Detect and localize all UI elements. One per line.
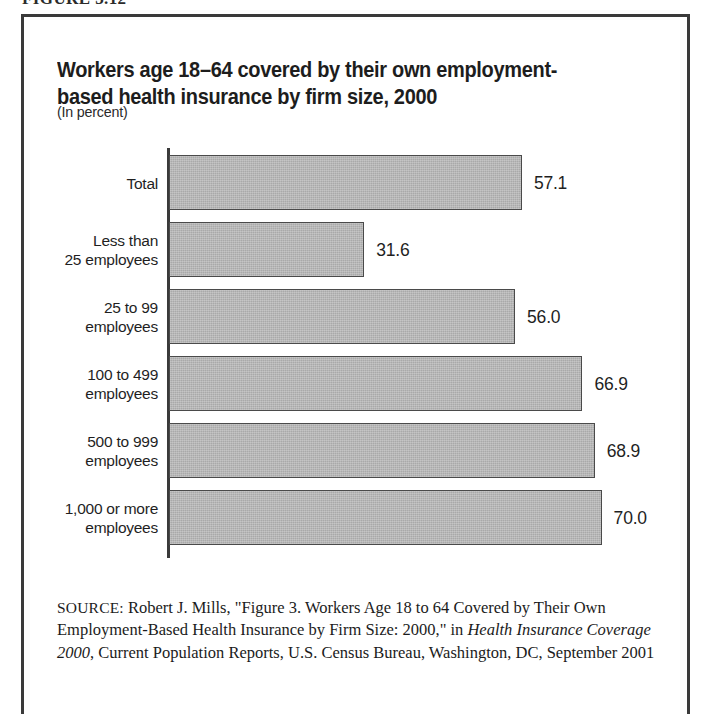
bar-category-label: 100 to 499 employees [0,365,158,403]
figure-number-label: FIGURE 3.12 [22,0,127,9]
bar[interactable] [169,490,602,545]
source-text-after: , Current Population Reports, U.S. Censu… [90,643,654,662]
bar[interactable] [169,222,364,277]
bar-row: 500 to 999 employees68.9 [24,423,693,478]
source-note: SOURCE: Robert J. Mills, "Figure 3. Work… [57,597,657,665]
bar-category-label: Total [0,173,158,192]
bar[interactable] [169,423,595,478]
bar-row: 25 to 99 employees56.0 [24,289,693,344]
bar-value-label: 66.9 [594,373,627,394]
bar-value-label: 68.9 [607,440,640,461]
bar-value-label: 31.6 [376,239,409,260]
bar-value-label: 57.1 [534,172,567,193]
bar-value-label: 70.0 [614,507,647,528]
bar-chart-plot-area: Total57.1Less than 25 employees31.625 to… [24,17,693,577]
bar-row: 1,000 or more employees70.0 [24,490,693,545]
bar[interactable] [169,356,582,411]
bar-value-label: 56.0 [527,306,560,327]
bar-row: Less than 25 employees31.6 [24,222,693,277]
bar-category-label: Less than 25 employees [0,231,158,269]
bar-category-label: 1,000 or more employees [0,499,158,537]
bar-category-label: 25 to 99 employees [0,298,158,336]
bar-row: 100 to 499 employees66.9 [24,356,693,411]
bar-row: Total57.1 [24,155,693,210]
figure-frame: Workers age 18–64 covered by their own e… [21,14,690,714]
bar[interactable] [169,155,522,210]
bar-category-label: 500 to 999 employees [0,432,158,470]
bar[interactable] [169,289,515,344]
source-prefix: SOURCE: [57,599,124,616]
